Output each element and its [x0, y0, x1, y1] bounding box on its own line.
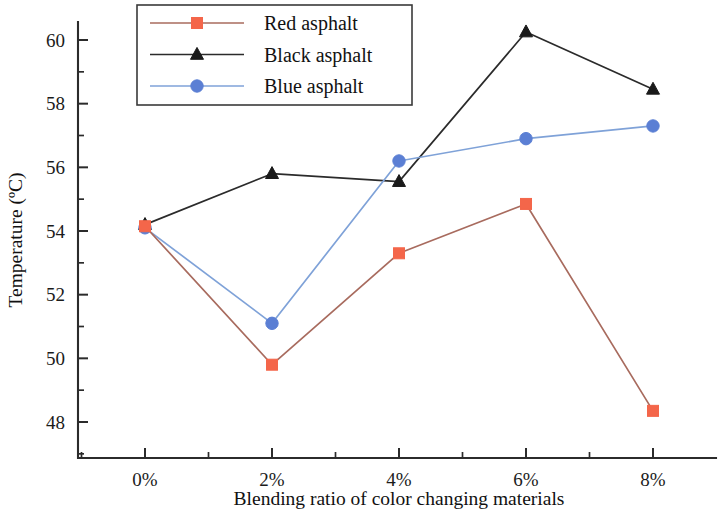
legend-label: Blue asphalt [264, 75, 364, 98]
x-tick-label: 4% [386, 469, 412, 490]
data-point-circle [393, 155, 405, 167]
x-tick-label: 8% [640, 469, 666, 490]
legend-label: Red asphalt [264, 12, 358, 35]
data-point-circle [647, 120, 659, 132]
x-tick-label: 6% [513, 469, 539, 490]
line-chart: 485052545658600%2%4%6%8%Blending ratio o… [0, 0, 721, 515]
data-point-square [648, 405, 659, 416]
chart-figure: 485052545658600%2%4%6%8%Blending ratio o… [0, 0, 721, 515]
data-point-circle [191, 80, 203, 92]
y-tick-label: 58 [46, 93, 65, 114]
data-point-triangle [266, 167, 279, 179]
data-point-circle [520, 132, 532, 144]
y-tick-label: 50 [46, 348, 65, 369]
data-point-square [394, 248, 405, 259]
x-axis-title: Blending ratio of color changing materia… [234, 488, 565, 509]
y-tick-label: 52 [46, 284, 65, 305]
legend: Red asphaltBlack asphaltBlue asphalt [137, 5, 412, 105]
data-point-square [267, 359, 278, 370]
legend-label: Black asphalt [264, 44, 373, 67]
y-tick-label: 48 [46, 412, 65, 433]
y-tick-label: 60 [46, 30, 65, 51]
data-point-square [192, 18, 203, 29]
data-point-square [521, 198, 532, 209]
data-point-circle [266, 317, 278, 329]
y-axis-title: Temperature (ºC) [5, 172, 27, 307]
x-tick-label: 0% [132, 469, 158, 490]
y-tick-label: 56 [46, 157, 65, 178]
data-point-triangle [520, 25, 533, 37]
series-line [145, 204, 653, 411]
series-red-asphalt [140, 198, 659, 416]
x-tick-label: 2% [259, 469, 285, 490]
series-blue-asphalt [139, 120, 659, 330]
y-tick-label: 54 [46, 221, 66, 242]
data-point-square [140, 221, 151, 232]
